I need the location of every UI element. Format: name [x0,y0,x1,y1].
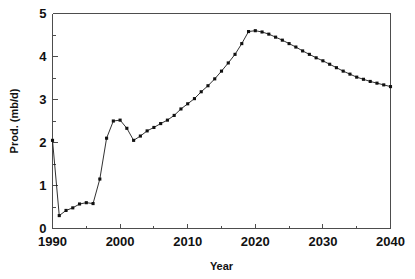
data-point-marker [166,119,169,122]
data-point-marker [213,77,216,80]
x-tick-label: 2040 [376,234,405,249]
data-point-marker [247,30,250,33]
data-point-marker [186,102,189,105]
data-point-marker [301,49,304,52]
data-point-marker [254,29,257,32]
data-point-marker [240,42,243,45]
data-point-marker [342,70,345,73]
data-point-marker [112,119,115,122]
data-point-marker [274,36,277,39]
data-point-marker [85,201,88,204]
data-point-marker [355,76,358,79]
data-point-marker [193,97,196,100]
x-tick-label: 2000 [106,234,135,249]
data-point-marker [335,66,338,69]
data-point-marker [227,61,230,64]
data-point-marker [64,209,67,212]
y-tick-label: 4 [39,49,47,64]
data-point-marker [159,122,162,125]
data-point-marker [51,139,54,142]
x-tick-label: 1990 [38,234,67,249]
data-point-marker [220,70,223,73]
data-point-marker [206,84,209,87]
data-point-marker [200,90,203,93]
data-point-marker [389,85,392,88]
data-point-marker [261,30,264,33]
y-axis-title: Prod. (mb/d) [8,88,20,153]
data-point-marker [375,82,378,85]
data-point-marker [71,206,74,209]
data-point-marker [233,53,236,56]
data-point-marker [369,80,372,83]
data-point-marker [321,59,324,62]
data-point-marker [315,56,318,59]
chart-canvas: 012345199020002010202020302040YearProd. … [0,0,415,279]
data-point-marker [78,202,81,205]
data-point-marker [173,114,176,117]
data-point-marker [362,78,365,81]
data-point-marker [179,107,182,110]
data-point-marker [348,73,351,76]
data-point-marker [267,33,270,36]
data-point-marker [105,137,108,140]
x-tick-label: 2030 [308,234,337,249]
data-point-marker [119,119,122,122]
data-point-marker [98,178,101,181]
data-point-marker [139,135,142,138]
data-point-marker [288,42,291,45]
y-tick-label: 5 [39,6,46,21]
series-markers-production [51,29,392,217]
y-tick-label: 1 [39,178,46,193]
y-tick-label: 2 [39,135,46,150]
data-point-marker [281,39,284,42]
data-point-marker [294,45,297,48]
data-point-marker [125,127,128,130]
data-point-marker [328,63,331,66]
data-point-marker [382,83,385,86]
data-point-marker [152,126,155,129]
y-tick-label: 3 [39,92,46,107]
data-point-marker [58,214,61,217]
x-tick-label: 2010 [173,234,202,249]
data-point-marker [92,202,95,205]
data-point-marker [146,129,149,132]
data-point-marker [308,53,311,56]
series-line-production [53,31,391,216]
x-axis-title: Year [210,260,234,272]
data-point-marker [132,139,135,142]
x-tick-label: 2020 [241,234,270,249]
production-chart: 012345199020002010202020302040YearProd. … [0,0,415,279]
